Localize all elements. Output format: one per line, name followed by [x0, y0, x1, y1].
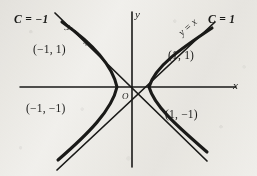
plot-canvas [0, 0, 257, 176]
point-label-lower-left: (−1, −1) [26, 103, 65, 115]
curve-label-left-branch: C = −1 [14, 14, 49, 26]
x-axis-label: x [233, 80, 238, 91]
y-axis-label: y [135, 9, 140, 20]
hyperbola-branch-right [149, 28, 212, 152]
hyperbola-figure: x y O C = −1 C = 1 y = x y = −x (−1, 1) … [0, 0, 257, 176]
origin-label: O [122, 92, 129, 101]
curve-label-right-branch: C = 1 [208, 14, 235, 26]
point-label-upper-right: (1, 1) [168, 50, 194, 62]
point-label-upper-left: (−1, 1) [33, 44, 66, 56]
point-label-lower-right: (1, −1) [165, 109, 198, 121]
